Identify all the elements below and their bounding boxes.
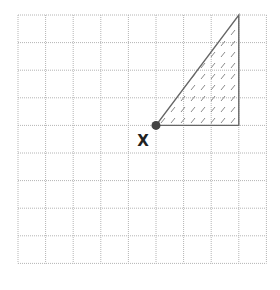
point-x-label: X — [137, 132, 149, 150]
grid-diagram: X — [0, 0, 280, 290]
point-x-dot — [152, 121, 161, 130]
